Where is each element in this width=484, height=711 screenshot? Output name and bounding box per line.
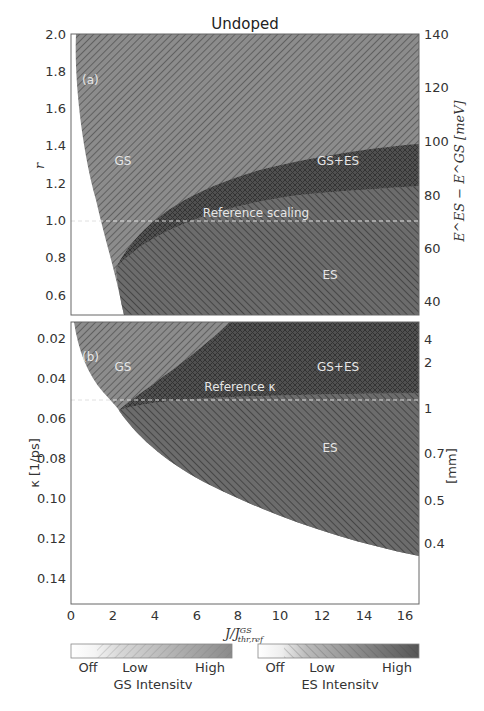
xtick: 2 (109, 608, 117, 623)
ytick: 0.14 (37, 571, 66, 586)
xtick: 6 (193, 608, 201, 623)
panel-b-label: (b) (82, 350, 99, 364)
panel-a-region-gses-label: GS+ES (317, 154, 359, 168)
ytick: 0.8 (45, 250, 66, 265)
ytick: 1.6 (45, 101, 66, 116)
colorbar-es-low-label: Low (309, 660, 335, 675)
panel-b-ylabel: κ [1/ps] (27, 438, 42, 488)
xtick: 12 (314, 608, 331, 623)
ytick-right: 2 (424, 355, 432, 370)
panel-a-region-es-label: ES (322, 268, 337, 282)
colorbar-es: Off Low High ES Intensitv (258, 644, 419, 692)
ytick-right: 60 (424, 241, 441, 256)
panel-a-label: (a) (82, 73, 99, 87)
ytick-right: 80 (424, 188, 441, 203)
colorbar-gs-high-label: High (195, 660, 225, 675)
colorbar-gs-hatch (97, 644, 232, 658)
ytick-right: 0.7 (424, 446, 445, 461)
colorbar-es-title: ES Intensitv (301, 677, 378, 692)
ytick: 1.0 (45, 213, 66, 228)
ytick-right: 0.5 (424, 493, 445, 508)
panel-a-reference-label: Reference scaling (203, 206, 309, 220)
ytick-right: 140 (424, 27, 449, 42)
colorbar-gs-low-label: Low (122, 660, 148, 675)
xtick: 16 (397, 608, 414, 623)
ytick: 0.6 (45, 288, 66, 303)
ytick-right: 4 (424, 332, 432, 347)
colorbar-es-hatch (284, 644, 419, 658)
figure: Undoped (a) GS GS+ES Reference scaling E… (0, 0, 484, 711)
panel-b: (b) GS GS+ES Reference κ ES 0.02 0.04 0.… (27, 322, 459, 604)
ytick: 0.10 (37, 491, 66, 506)
colorbar-gs: Off Low High GS Intensitv (71, 644, 232, 692)
ytick: 0.12 (37, 531, 66, 546)
colorbar-es-high-label: High (382, 660, 412, 675)
xaxis-label-sup: GS (240, 626, 252, 635)
xtick: 8 (234, 608, 242, 623)
panel-a-ylabel-right: E^ES − E^GS [meV] (452, 99, 467, 242)
panel-a-ylabel: r (32, 162, 47, 169)
ytick-right: 120 (424, 80, 449, 95)
ytick-right: 40 (424, 294, 441, 309)
xaxis: 0 2 4 6 8 10 12 14 16 J/JGSthr,ref (67, 608, 413, 644)
chart-title: Undoped (211, 15, 278, 33)
ytick: 1.8 (45, 64, 66, 79)
panel-b-region-gs-label: GS (115, 360, 132, 374)
xtick: 14 (356, 608, 373, 623)
panel-b-region-es-label: ES (322, 441, 337, 455)
panel-b-ylabel-right: [mm] (444, 448, 459, 483)
xaxis-label: J/JGSthr,ref (222, 626, 265, 644)
panel-b-yaxis-left: 0.02 0.04 0.06 0.08 0.10 0.12 0.14 κ [1/… (27, 331, 66, 586)
ytick: 0.04 (37, 371, 66, 386)
panel-a: (a) GS GS+ES Reference scaling ES 2.0 1.… (32, 27, 467, 315)
ytick: 1.2 (45, 176, 66, 191)
xtick: 4 (151, 608, 159, 623)
xtick: 10 (272, 608, 289, 623)
xtick: 0 (67, 608, 75, 623)
colorbar-gs-off-label: Off (78, 660, 98, 675)
panel-a-yaxis-left: 2.0 1.8 1.6 1.4 1.2 1.0 0.8 0.6 r (32, 27, 66, 303)
panel-b-yaxis-right: 4 2 1 0.7 0.5 0.4 [mm] (424, 332, 459, 551)
ytick-right: 1 (424, 401, 432, 416)
colorbar-gs-title: GS Intensitv (113, 677, 192, 692)
ytick-right: 0.4 (424, 536, 445, 551)
xaxis-label-sub: thr,ref (238, 635, 265, 644)
panel-b-reference-label: Reference κ (204, 380, 275, 394)
ytick-right: 100 (424, 134, 449, 149)
ytick: 1.4 (45, 138, 66, 153)
panel-a-region-gs-label: GS (115, 154, 132, 168)
colorbar-es-off-label: Off (265, 660, 285, 675)
ytick: 0.06 (37, 411, 66, 426)
panel-b-region-gses-label: GS+ES (317, 360, 359, 374)
panel-a-yaxis-right: 140 120 100 80 60 40 E^ES − E^GS [meV] (424, 27, 467, 309)
ytick: 0.02 (37, 331, 66, 346)
ytick: 2.0 (45, 27, 66, 42)
